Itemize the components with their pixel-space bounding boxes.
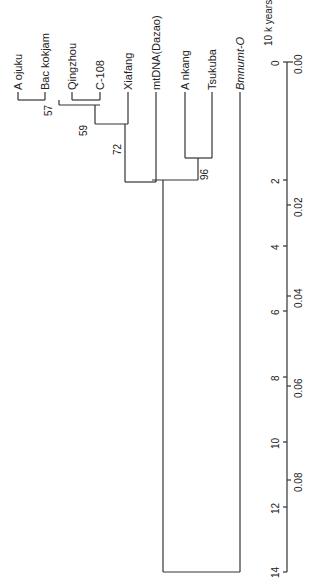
time-axis: 10 k years 0 2 4 6 8 10 12 14 0.00 0.02 … <box>263 0 304 578</box>
time-tick-2: 2 <box>270 178 281 184</box>
bootstrap-96: 96 <box>199 168 210 180</box>
distance-tick-008: 0.08 <box>293 472 304 492</box>
distance-tick-000: 0.00 <box>293 54 304 74</box>
taxon-label-bmnumt: Bmnumt-O <box>234 36 246 90</box>
time-tick-10: 10 <box>270 437 281 449</box>
time-tick-4: 4 <box>270 244 281 250</box>
bootstrap-72: 72 <box>112 143 123 155</box>
taxon-labels: A ojuku Bac kokjam Qingzhou C-108 Xiafan… <box>12 15 246 90</box>
taxon-label-mtdna: mtDNA(Dazao) <box>150 15 162 90</box>
taxon-label-xiafang: Xiafang <box>122 53 134 90</box>
time-tick-8: 8 <box>270 375 281 381</box>
time-axis-title: 10 k years <box>263 0 274 46</box>
taxon-label-tsukuba: Tsukuba <box>206 48 218 90</box>
taxon-label-aojuku: A ojuku <box>12 54 24 90</box>
distance-tick-002: 0.02 <box>293 197 304 217</box>
time-tick-6: 6 <box>270 309 281 315</box>
bootstrap-57: 57 <box>43 104 54 116</box>
time-tick-12: 12 <box>270 502 281 514</box>
bootstrap-59: 59 <box>78 124 89 136</box>
time-tick-14: 14 <box>270 566 281 578</box>
taxon-label-backokjam: Bac kokjam <box>39 33 51 90</box>
distance-tick-004: 0.04 <box>293 288 304 308</box>
taxon-label-qingzhou: Qingzhou <box>66 43 78 90</box>
tree-branches <box>18 92 240 572</box>
taxon-label-ankang: A nkang <box>179 50 191 90</box>
taxon-label-c108: C-108 <box>94 60 106 90</box>
phylogenetic-tree: A ojuku Bac kokjam Qingzhou C-108 Xiafan… <box>0 0 316 578</box>
time-tick-0: 0 <box>270 60 281 66</box>
distance-tick-006: 0.06 <box>293 378 304 398</box>
